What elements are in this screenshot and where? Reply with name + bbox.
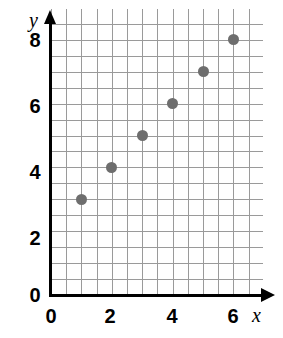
gridline-horizontal xyxy=(51,24,263,25)
x-axis-arrowhead-icon xyxy=(261,288,275,302)
data-point xyxy=(137,130,148,141)
gridline-horizontal xyxy=(51,183,263,184)
x-tick-label-0: 0 xyxy=(39,306,63,326)
gridline-horizontal xyxy=(51,56,263,57)
y-axis-arrowhead-icon xyxy=(44,10,56,24)
gridline-horizontal xyxy=(51,215,263,216)
gridline-horizontal xyxy=(51,247,263,248)
data-point xyxy=(198,66,209,77)
gridline-horizontal xyxy=(51,72,263,73)
gridline-horizontal xyxy=(51,104,263,105)
y-axis-line xyxy=(49,22,52,297)
gridline-horizontal xyxy=(51,120,263,121)
x-axis-label: x xyxy=(252,305,261,325)
y-tick-label-8: 8 xyxy=(24,30,46,50)
plot-grid-area xyxy=(51,9,263,295)
gridline-horizontal xyxy=(51,279,263,280)
data-point xyxy=(76,194,87,205)
y-axis-label: y xyxy=(29,10,38,30)
y-tick-label-0: 0 xyxy=(24,285,46,305)
gridline-horizontal xyxy=(51,151,263,152)
gridline-horizontal xyxy=(51,263,263,264)
gridline-horizontal xyxy=(51,167,263,168)
gridline-horizontal xyxy=(51,231,263,232)
x-tick-label-6: 6 xyxy=(221,306,245,326)
y-tick-label-2: 2 xyxy=(24,228,46,248)
x-tick-label-4: 4 xyxy=(160,306,184,326)
x-axis-line xyxy=(49,294,264,297)
y-tick-label-4: 4 xyxy=(24,162,46,182)
y-tick-label-6: 6 xyxy=(24,96,46,116)
gridline-horizontal xyxy=(51,136,263,137)
x-tick-label-2: 2 xyxy=(98,306,122,326)
scatter-plot-figure: y x 8 6 4 2 0 0 2 4 6 xyxy=(0,0,283,338)
gridline-horizontal xyxy=(51,88,263,89)
